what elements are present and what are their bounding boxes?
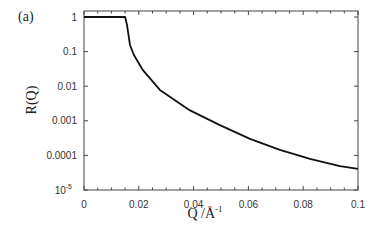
plot-frame bbox=[84, 11, 358, 190]
x-axis-label-sup: -1 bbox=[215, 204, 223, 214]
y-tick-label: 0.01 bbox=[58, 81, 78, 92]
x-tick-label: 0.1 bbox=[351, 199, 365, 210]
y-tick-label: 0.001 bbox=[52, 115, 77, 126]
y-axis-ticks: 10.10.010.0010.000110-5 bbox=[46, 12, 358, 196]
x-axis-ticks: 00.020.040.060.080.1 bbox=[81, 11, 365, 210]
x-tick-label: 0.08 bbox=[293, 199, 313, 210]
y-tick-label: 1 bbox=[71, 12, 77, 23]
panel-label: (a) bbox=[18, 9, 34, 25]
x-axis-label-main: Q /Å bbox=[187, 206, 216, 221]
data-line bbox=[84, 17, 358, 169]
reflectivity-chart: (a) 00.020.040.060.080.1 10.10.010.0010.… bbox=[0, 0, 381, 235]
y-tick-label: 0.0001 bbox=[46, 150, 77, 161]
x-tick-label: 0.02 bbox=[129, 199, 149, 210]
y-axis-label: R(Q) bbox=[24, 85, 40, 114]
x-tick-label: 0.06 bbox=[239, 199, 259, 210]
y-tick-label: 0.1 bbox=[63, 46, 77, 57]
x-tick-label: 0 bbox=[81, 199, 87, 210]
x-axis-label: Q /Å-1 bbox=[187, 204, 222, 221]
y-tick-label: 10-5 bbox=[55, 183, 72, 196]
